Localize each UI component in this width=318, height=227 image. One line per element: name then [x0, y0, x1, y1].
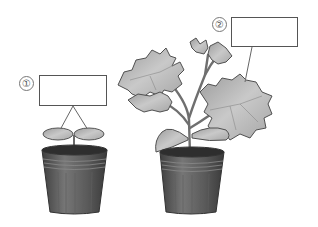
leader-line-1 [60, 106, 88, 130]
cotyledon-right-icon [74, 128, 104, 140]
pot-1-icon [42, 147, 107, 215]
grown-plant [118, 38, 272, 214]
cotyledon-large-right-icon [192, 128, 229, 141]
leader-line-2 [245, 47, 252, 82]
cotyledon-left-icon [43, 128, 73, 140]
leaf-upper-left-icon [118, 48, 184, 98]
leaf-top-right-icon [208, 42, 232, 64]
plant-diagram: ① ② [0, 0, 318, 227]
leaf-top-small-icon [190, 38, 208, 54]
answer-box-2[interactable] [231, 17, 298, 47]
answer-box-1[interactable] [39, 75, 107, 106]
label-number-2: ② [212, 17, 227, 32]
seedling [42, 106, 107, 214]
label-number-1: ① [19, 76, 34, 91]
